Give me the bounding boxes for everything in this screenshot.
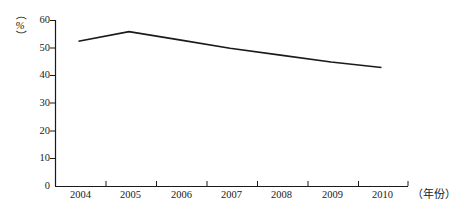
x-axis-ticks — [56, 181, 409, 186]
line-chart: （ % ） 60 50 40 30 20 10 0 2004 2005 2006… — [0, 0, 467, 213]
series-line-0 — [79, 32, 382, 68]
y-axis-ticks — [50, 21, 55, 159]
plot-area — [0, 0, 467, 213]
